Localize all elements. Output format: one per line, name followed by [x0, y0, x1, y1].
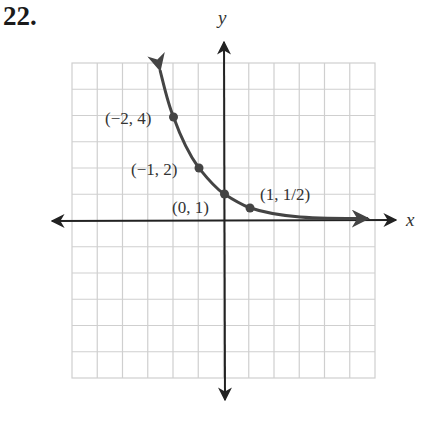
point-1-half	[246, 204, 255, 213]
point-label-neg1-2: (−1, 2)	[131, 160, 177, 179]
point-label-1-half: (1, 1/2)	[260, 185, 310, 204]
graph: x y (−2, 4) (−1, 2) (0, 1) (1, 1/2)	[0, 0, 427, 422]
y-axis-label: y	[216, 7, 227, 28]
point-label-neg2-4: (−2, 4)	[105, 109, 151, 128]
point-label-0-1: (0, 1)	[172, 198, 209, 217]
x-axis-label: x	[405, 209, 415, 230]
point-neg1-2	[195, 164, 204, 173]
point-neg2-4	[169, 113, 178, 122]
y-axis	[224, 42, 225, 400]
point-0-1	[220, 190, 229, 199]
